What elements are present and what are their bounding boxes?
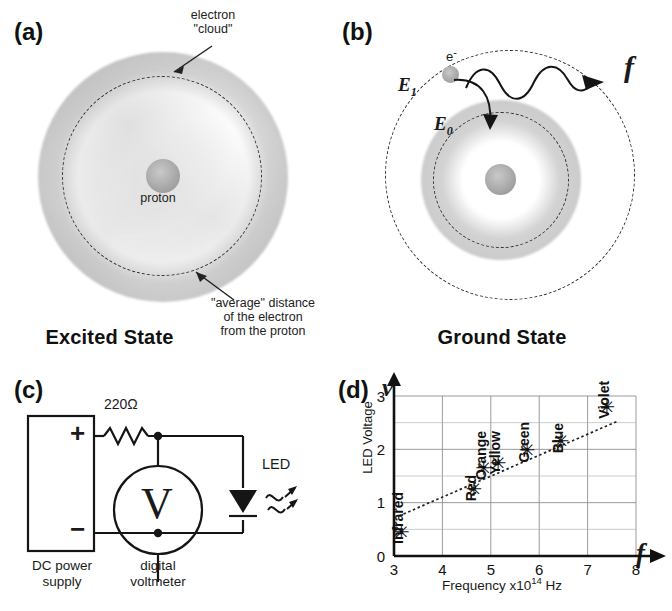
annotation-average-distance-line2: of the electron xyxy=(188,310,338,324)
annotation-average-distance-arrow xyxy=(186,266,246,306)
frequency-symbol-b: f xyxy=(624,50,634,84)
proton-ground xyxy=(485,164,516,195)
proton-excited xyxy=(146,159,180,193)
panel-b-label: (b) xyxy=(342,18,373,46)
voltmeter-label: digital voltmeter xyxy=(110,558,206,590)
annotation-electron-cloud-line1: electron xyxy=(158,8,268,22)
x-axis-title: Frequency x1014 Hz xyxy=(392,575,612,593)
y-axis-title: LED Voltage xyxy=(360,383,375,493)
proton-label: proton xyxy=(128,191,188,205)
led-label: LED xyxy=(262,456,290,472)
x-axis-arrowhead xyxy=(650,549,666,563)
panel-c: (c) 220Ω + − V xyxy=(0,370,336,611)
atom-excited-state xyxy=(38,52,288,302)
trend-line xyxy=(399,422,617,516)
junction-dot-bottom xyxy=(154,529,162,537)
x-axis-title-exponent: 14 xyxy=(531,575,542,586)
data-point-label: Green xyxy=(516,422,532,462)
x-axis-title-post: Hz xyxy=(542,578,562,593)
panel-d: (d) v f 3456780123✳Infrared✳Red✳Orange✳Y… xyxy=(336,370,672,611)
annotation-electron-cloud-line2: "cloud" xyxy=(158,22,268,36)
annotation-electron-cloud: electron "cloud" xyxy=(158,8,268,36)
x-axis-title-pre: Frequency x10 xyxy=(442,578,531,593)
resistor-symbol xyxy=(104,428,148,444)
resistor-value-label: 220Ω xyxy=(104,396,138,412)
panel-b: (b) e- E1 E0 f Ground State xyxy=(336,0,672,370)
voltmeter-letter: V xyxy=(141,482,173,526)
y-axis-title-text: LED Voltage xyxy=(360,401,375,473)
energy-level-e1-label: E1 xyxy=(398,74,417,100)
annotation-average-distance-line3: from the proton xyxy=(188,324,338,338)
annotation-cloud-arrow xyxy=(160,42,220,80)
electron-label: e- xyxy=(446,46,457,64)
led-diode-triangle xyxy=(229,490,257,513)
energy-level-e0-text: E xyxy=(434,113,447,134)
data-point-label: Blue xyxy=(550,423,566,454)
y-tick-label: 3 xyxy=(377,388,385,405)
supply-minus-terminal: − xyxy=(70,516,85,542)
data-point-label: Yellow xyxy=(487,431,503,475)
supply-plus-terminal: + xyxy=(70,420,85,446)
data-point-label: Violet xyxy=(596,380,612,418)
y-tick-label: 2 xyxy=(377,441,385,458)
energy-level-e1-sub: 1 xyxy=(411,85,417,99)
voltmeter-label-line1: digital xyxy=(110,558,206,574)
dc-power-supply-label-line1: DC power xyxy=(14,558,110,574)
x-tick-label: 8 xyxy=(632,561,640,578)
panel-a: (a) electron "cloud" proton "average" di… xyxy=(0,0,336,370)
y-tick-label: 1 xyxy=(377,494,385,511)
data-point-label: Infrared xyxy=(390,492,406,544)
energy-level-e1-text: E xyxy=(398,74,411,95)
photon-wave-arrow xyxy=(464,58,624,108)
y-tick-label: 0 xyxy=(377,548,385,565)
panel-b-caption: Ground State xyxy=(402,326,602,349)
panel-a-label: (a) xyxy=(14,18,43,46)
dc-power-supply-label: DC power supply xyxy=(14,558,110,590)
electron-charge-sup: - xyxy=(453,46,457,58)
y-axis-arrowhead xyxy=(387,372,401,386)
dc-power-supply-label-line2: supply xyxy=(14,574,110,590)
junction-dot-top xyxy=(154,432,162,440)
voltmeter-label-line2: voltmeter xyxy=(110,574,206,590)
panel-a-caption: Excited State xyxy=(22,326,197,349)
